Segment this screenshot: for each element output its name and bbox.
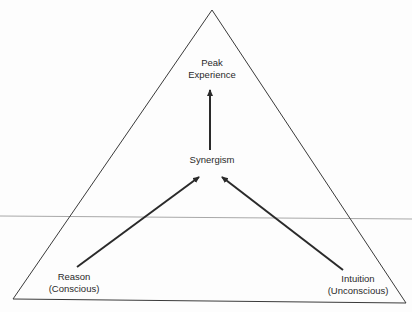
arrow-intuition-to-synergism (222, 177, 343, 270)
arrow-reason-to-synergism (77, 177, 199, 267)
diagram-canvas: Peak Experience Synergism Reason (Consci… (0, 0, 412, 312)
synergism-label: Synergism (180, 154, 244, 166)
node-synergism: Synergism (180, 154, 244, 166)
node-intuition: Intuition (Unconscious) (320, 273, 396, 297)
peak-label-line1: Peak (180, 57, 244, 69)
reason-label-line1: Reason (42, 271, 106, 283)
intuition-label-line2: (Unconscious) (320, 285, 396, 297)
node-reason: Reason (Conscious) (42, 271, 106, 295)
node-peak-experience: Peak Experience (180, 57, 244, 81)
intuition-label-line1: Intuition (320, 273, 396, 285)
reason-label-line2: (Conscious) (42, 283, 106, 295)
peak-label-line2: Experience (180, 69, 244, 81)
